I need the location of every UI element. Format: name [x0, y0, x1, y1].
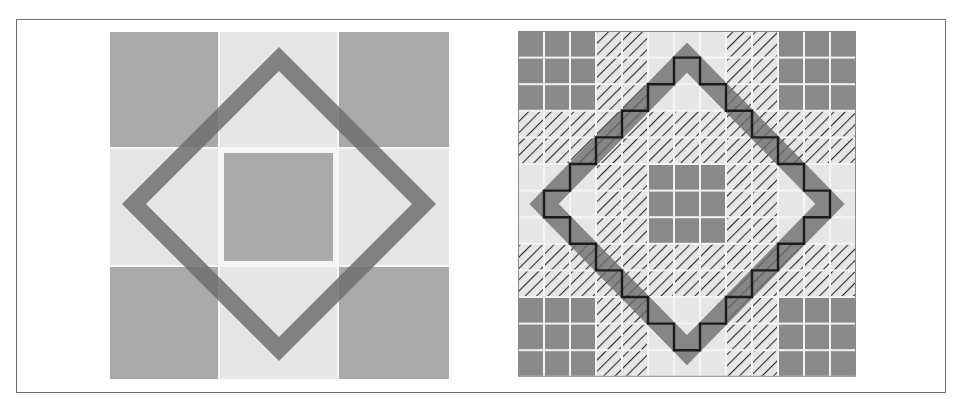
cell-hatch	[753, 59, 777, 84]
cell-solid	[779, 85, 803, 110]
cell-solid	[805, 32, 829, 57]
cell-light	[571, 192, 595, 217]
cell-hatch	[805, 138, 829, 163]
cell-solid	[831, 325, 855, 350]
cell-solid	[779, 298, 803, 323]
cell-hatch	[597, 218, 621, 243]
cell-solid	[649, 218, 673, 243]
cell-hatch	[675, 245, 699, 270]
cell-light	[831, 165, 855, 190]
cell-hatch	[597, 298, 621, 323]
cell-solid	[779, 32, 803, 57]
cell-hatch	[649, 245, 673, 270]
cell-hatch	[701, 112, 725, 137]
cell-solid	[831, 351, 855, 376]
cell-hatch	[623, 192, 647, 217]
cell-light	[675, 298, 699, 323]
cell-hatch	[831, 138, 855, 163]
cell-hatch	[649, 112, 673, 137]
cell-solid	[545, 85, 569, 110]
cell-hatch	[545, 245, 569, 270]
cell-hatch	[727, 59, 751, 84]
cell-solid	[519, 85, 543, 110]
cell-hatch	[649, 271, 673, 296]
cell-solid	[831, 298, 855, 323]
cell-solid	[675, 218, 699, 243]
cell-hatch	[675, 112, 699, 137]
cell-solid	[571, 32, 595, 57]
cell-solid	[779, 59, 803, 84]
cell-hatch	[545, 138, 569, 163]
cell-solid	[779, 351, 803, 376]
cell-hatch	[831, 245, 855, 270]
cell-hatch	[623, 32, 647, 57]
cell-solid	[805, 59, 829, 84]
cell-solid	[519, 325, 543, 350]
cell-hatch	[597, 325, 621, 350]
cell-light	[831, 218, 855, 243]
cell-hatch	[597, 85, 621, 110]
cell-light	[649, 32, 673, 57]
cell-hatch	[753, 298, 777, 323]
cell-solid	[571, 59, 595, 84]
cell-hatch	[779, 112, 803, 137]
cell-solid	[675, 192, 699, 217]
cell-hatch	[727, 32, 751, 57]
cell-hatch	[753, 85, 777, 110]
cell-solid	[805, 325, 829, 350]
cell-hatch	[805, 271, 829, 296]
cell-hatch	[753, 165, 777, 190]
cell-hatch	[753, 32, 777, 57]
cell-hatch	[519, 271, 543, 296]
cell-hatch	[545, 112, 569, 137]
cell-solid	[831, 85, 855, 110]
block-center	[224, 153, 333, 261]
cell-light	[519, 165, 543, 190]
cell-light	[675, 85, 699, 110]
cell-solid	[571, 325, 595, 350]
cell-solid	[805, 351, 829, 376]
cell-hatch	[623, 165, 647, 190]
cell-light	[701, 32, 725, 57]
cell-solid	[571, 85, 595, 110]
cell-hatch	[779, 271, 803, 296]
cell-solid	[779, 325, 803, 350]
cell-hatch	[727, 138, 751, 163]
cell-solid	[701, 192, 725, 217]
cell-solid	[701, 218, 725, 243]
right-panel-graphic	[518, 31, 856, 377]
cell-hatch	[727, 351, 751, 376]
cell-hatch	[571, 112, 595, 137]
cell-hatch	[597, 165, 621, 190]
cell-light	[701, 351, 725, 376]
cell-hatch	[727, 165, 751, 190]
cell-hatch	[727, 245, 751, 270]
block-light	[220, 267, 337, 379]
cell-solid	[701, 165, 725, 190]
cell-hatch	[597, 59, 621, 84]
cell-solid	[571, 298, 595, 323]
cell-hatch	[701, 138, 725, 163]
cell-solid	[519, 298, 543, 323]
cell-solid	[519, 32, 543, 57]
cell-light	[649, 351, 673, 376]
cell-solid	[545, 298, 569, 323]
cell-hatch	[831, 271, 855, 296]
cell-solid	[545, 325, 569, 350]
cell-solid	[545, 351, 569, 376]
cell-hatch	[805, 245, 829, 270]
cell-hatch	[597, 351, 621, 376]
cell-solid	[805, 298, 829, 323]
right-panel-pixel-grid	[518, 31, 856, 377]
cell-hatch	[623, 138, 647, 163]
cell-hatch	[623, 218, 647, 243]
cell-hatch	[623, 59, 647, 84]
cell-solid	[649, 192, 673, 217]
cell-solid	[649, 165, 673, 190]
cell-hatch	[753, 192, 777, 217]
cell-hatch	[701, 271, 725, 296]
cell-hatch	[727, 218, 751, 243]
cell-solid	[831, 32, 855, 57]
cell-hatch	[623, 245, 647, 270]
cell-solid	[571, 351, 595, 376]
